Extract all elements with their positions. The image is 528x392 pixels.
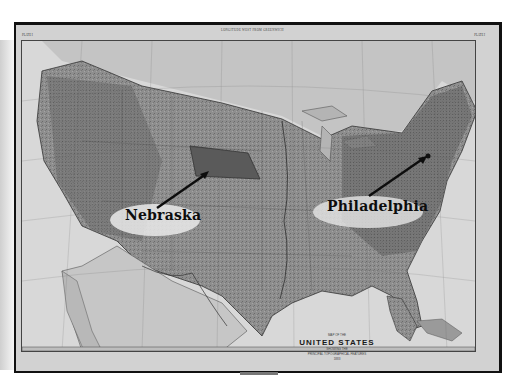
philadelphia-marker xyxy=(426,154,431,159)
plate-label-right: PLATE I xyxy=(474,33,485,37)
page-edge-shadow xyxy=(0,40,14,370)
philadelphia-label: Philadelphia xyxy=(327,198,428,214)
nebraska-label: Nebraska xyxy=(125,207,201,223)
map-title: UNITED STATES xyxy=(292,338,382,347)
longitude-caption: LONGITUDE WEST FROM GREENWICH xyxy=(221,28,284,32)
map-graphic xyxy=(22,41,475,351)
plate-label-left: PLATE I xyxy=(22,33,33,37)
scale-bar xyxy=(240,372,278,375)
map-title-block: MAP OF THE UNITED STATES SHOWING THE PRI… xyxy=(292,333,382,362)
map-frame: PLATE I PLATE I LONGITUDE WEST FROM GREE… xyxy=(14,22,502,373)
us-map xyxy=(21,40,476,352)
title-year: 1883 xyxy=(292,357,382,362)
